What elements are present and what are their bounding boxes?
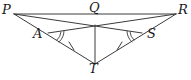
vertex-label-R: R [178,3,188,16]
geometry-figure: P Q R A S T [0,0,191,80]
segment-P-T [14,14,95,64]
segment-R-A [48,14,176,33]
vertex-label-S: S [147,27,156,40]
segment-R-T [95,14,176,64]
vertex-label-P: P [2,3,11,16]
vertex-label-Q: Q [89,1,100,14]
vertex-label-A: A [33,27,42,40]
angle-arc-at-S [130,32,134,40]
vertex-label-T: T [89,62,98,75]
angle-arc-at-A [57,32,61,40]
